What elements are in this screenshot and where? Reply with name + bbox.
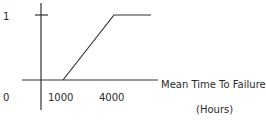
x-tick-label-1000: 1000 — [48, 92, 73, 104]
y-tick-label-one: 1 — [3, 11, 9, 23]
x-tick-label-4000: 4000 — [99, 92, 124, 104]
y-tick-label-zero: 0 — [3, 92, 9, 104]
x-axis-title: Mean Time To Failures — [161, 79, 266, 91]
membership-line — [63, 15, 151, 80]
x-axis-unit: (Hours) — [196, 104, 233, 116]
